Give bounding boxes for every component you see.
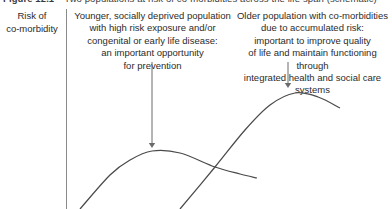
curves-plot [0, 0, 392, 209]
annotation-arrow-younger [149, 62, 155, 148]
curve-older-population [180, 93, 340, 209]
annotation-arrow-younger-head-icon [149, 143, 155, 148]
annotation-arrow-older [285, 62, 291, 88]
annotation-arrow-older-head-icon [285, 83, 291, 88]
curve-younger-population [80, 150, 257, 209]
figure-container: Figure 12.1Two populations at risk of co… [0, 0, 392, 209]
